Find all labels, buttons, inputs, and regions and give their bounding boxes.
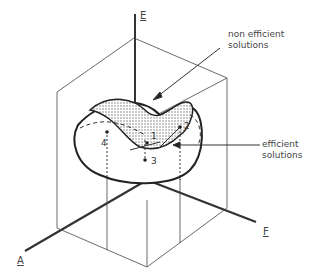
label-non-efficient: non efficient solutions	[228, 29, 284, 51]
label-line: solutions	[262, 150, 302, 161]
axis-label-e: E	[140, 10, 146, 21]
label-line: non efficient	[228, 29, 284, 40]
surface	[74, 99, 201, 183]
axis-label-a: A	[17, 255, 24, 266]
point-label-4: 4	[101, 138, 107, 148]
point-label-2: 2	[184, 121, 190, 131]
point-label-3: 3	[151, 156, 157, 166]
label-line: solutions	[228, 40, 284, 51]
point-label-1: 1	[151, 131, 157, 141]
label-line: efficient	[262, 139, 302, 150]
axis-label-f: F	[263, 226, 269, 237]
label-efficient: efficient solutions	[262, 139, 302, 161]
